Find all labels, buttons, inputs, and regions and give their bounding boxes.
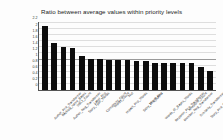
bar [70,48,76,90]
plot-area: 00.20.40.60.811.21.41.61.822.2 [38,23,216,91]
bar-slot [77,23,86,90]
x-axis-label-slot: Story_Prio_Bayes [132,91,141,140]
bar-slot [50,23,59,90]
bar-slot [160,23,169,90]
bar [152,63,158,90]
y-axis-tick-label: 0.4 [32,72,39,76]
bar [42,26,48,90]
bar [189,63,195,90]
chart-figure: Ratio between average values within prio… [0,0,223,140]
bar-slot [141,23,150,90]
x-axis-label-slot: Author_Neg_Transformer [58,91,67,140]
x-axis-label-slot: Words_IC_Bayes_Words [150,91,159,140]
bar-slot [59,23,68,90]
y-axis-tick-label: 0.6 [32,66,39,70]
bar [207,71,213,90]
bar [170,63,176,90]
x-axis-label-slot: Impact_Prio_Words [113,91,122,140]
y-axis-tick-label: 2.2 [32,18,39,22]
bar [143,61,149,90]
bar [88,59,94,90]
bar-slot [205,23,214,90]
y-axis-tick-label: 1.8 [32,30,39,34]
bar [125,60,131,90]
bar-slot [114,23,123,90]
y-axis-tick-label: 0.2 [32,79,39,83]
bar-slot [123,23,132,90]
chart-title: Ratio between average values within prio… [0,8,223,15]
bar-slot [196,23,205,90]
bar [198,67,204,90]
x-axis-label-slot: TFIDF_Prio [141,91,150,140]
bar [97,59,103,90]
x-axis-label-slot: Complexity_Count [95,91,104,140]
bar [115,60,121,90]
x-axis-labels: Author_Prio_TransformerBacklog_name_Baye… [38,91,216,140]
bar-slot [132,23,141,90]
x-axis-label-slot: Label_Prio [86,91,95,140]
bar-slot [150,23,159,90]
bar [106,60,112,90]
bar-slot [95,23,104,90]
x-axis-label-slot: DBL1_Count [67,91,76,140]
x-axis-label-slot: Member_Neg_Transformer [168,91,177,140]
x-axis-label-slot: Story_Prio_Transformer [196,91,205,140]
x-axis-label-slot: Backlog_name_Bayes [49,91,58,140]
bar-slot [68,23,77,90]
bar [61,47,67,90]
bar [134,61,140,90]
x-axis-label-slot: Author_Prio_Transformer [40,91,49,140]
x-axis-label-slot: Story_Type_Words [76,91,85,140]
bar-slot [41,23,50,90]
bar-slot [187,23,196,90]
bar-slot [169,23,178,90]
bar [161,63,167,90]
x-axis-label-slot: Words_Count [104,91,113,140]
bar-series [39,23,216,90]
bar [79,56,85,90]
bar-slot [86,23,95,90]
y-axis-tick-label: 1.2 [32,48,39,52]
bar [180,63,186,90]
x-axis-label-slot: Similarity_Transformer [187,91,196,140]
bar [51,43,57,90]
x-axis-label-slot: Reporter_Prio_Transformer [159,91,168,140]
bar-slot [178,23,187,90]
y-axis-tick-label: 1.6 [32,36,39,40]
bar-slot [105,23,114,90]
y-axis-tick-label: 0.8 [32,60,39,64]
y-axis-tick-label: 1.4 [32,42,39,46]
x-axis-label-slot: Milestone_Count [178,91,187,140]
x-axis-label-slot: Text [122,91,131,140]
